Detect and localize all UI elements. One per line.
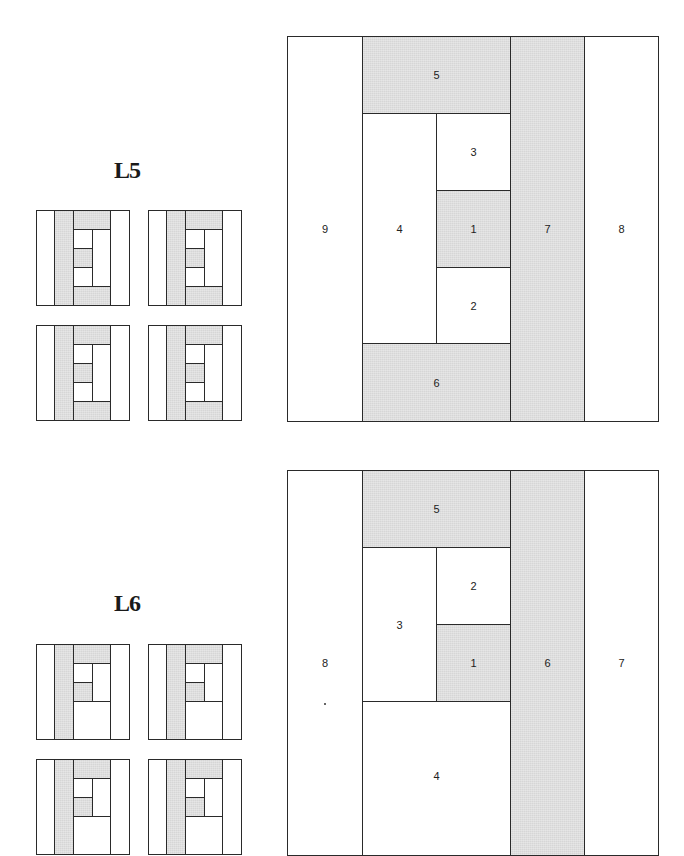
thumb-piece xyxy=(185,778,205,798)
piece-5: 5 xyxy=(362,470,511,548)
piece-2: 2 xyxy=(436,267,511,344)
thumb-piece xyxy=(148,644,167,740)
thumb-piece xyxy=(73,267,93,287)
thumb-piece xyxy=(73,229,93,249)
thumb-piece xyxy=(185,344,205,364)
thumb-piece xyxy=(73,644,111,664)
thumb-piece xyxy=(36,759,55,855)
thumb-piece xyxy=(222,325,242,421)
piece-4: 4 xyxy=(362,701,511,856)
piece-1: 1 xyxy=(436,190,511,268)
thumb-piece xyxy=(92,663,111,702)
thumb-piece xyxy=(185,267,205,287)
thumb-piece xyxy=(92,229,111,287)
thumb-piece xyxy=(204,778,223,817)
thumb-piece xyxy=(54,325,74,421)
thumb-piece xyxy=(73,344,93,364)
thumb-piece xyxy=(73,401,111,421)
thumb-piece xyxy=(73,759,111,779)
thumb-piece xyxy=(204,663,223,702)
thumb-piece xyxy=(185,797,205,817)
thumb-piece xyxy=(73,382,93,402)
l5-block-diagram: 9 5 4 3 1 2 6 7 8 xyxy=(287,36,659,422)
thumb-piece xyxy=(204,229,223,287)
mark-dot xyxy=(324,703,326,705)
thumb-piece xyxy=(36,325,55,421)
thumb-piece xyxy=(110,759,130,855)
thumb-piece xyxy=(185,682,205,702)
thumb-piece xyxy=(185,759,223,779)
piece-1: 1 xyxy=(436,624,511,702)
thumb-piece xyxy=(73,682,93,702)
thumb-piece xyxy=(185,363,205,383)
thumb-piece xyxy=(73,797,93,817)
thumb-piece xyxy=(222,759,242,855)
piece-6: 6 xyxy=(362,343,511,422)
piece-6: 6 xyxy=(510,470,585,856)
thumb-piece xyxy=(185,229,205,249)
thumb-piece xyxy=(36,644,55,740)
thumb-piece xyxy=(73,210,111,230)
l5-thumbnail xyxy=(36,325,130,421)
thumb-piece xyxy=(166,325,186,421)
block-label-l5: L5 xyxy=(114,157,140,184)
thumb-piece xyxy=(73,701,111,740)
thumb-piece xyxy=(166,210,186,306)
piece-4: 4 xyxy=(362,113,437,344)
piece-8: 8 xyxy=(287,470,363,856)
thumb-piece xyxy=(73,325,111,345)
thumb-piece xyxy=(185,663,205,683)
thumb-piece xyxy=(54,210,74,306)
thumb-piece xyxy=(110,644,130,740)
piece-7: 7 xyxy=(510,36,585,422)
thumb-piece xyxy=(54,644,74,740)
thumb-piece xyxy=(185,401,223,421)
thumb-piece xyxy=(166,759,186,855)
piece-9: 9 xyxy=(287,36,363,422)
l5-thumbnail xyxy=(36,210,130,306)
block-label-l6: L6 xyxy=(114,590,140,617)
piece-3: 3 xyxy=(436,113,511,191)
thumb-piece xyxy=(185,644,223,664)
thumb-piece xyxy=(185,325,223,345)
l6-thumbnail xyxy=(36,759,130,855)
thumb-piece xyxy=(185,816,223,855)
thumb-piece xyxy=(36,210,55,306)
piece-5: 5 xyxy=(362,36,511,114)
thumb-piece xyxy=(73,363,93,383)
thumb-piece xyxy=(148,759,167,855)
piece-8: 8 xyxy=(584,36,659,422)
thumb-piece xyxy=(92,344,111,402)
thumb-piece xyxy=(73,286,111,306)
thumb-piece xyxy=(73,663,93,683)
thumb-piece xyxy=(73,778,93,798)
thumb-piece xyxy=(166,644,186,740)
thumb-piece xyxy=(222,644,242,740)
thumb-piece xyxy=(185,286,223,306)
thumb-piece xyxy=(222,210,242,306)
thumb-piece xyxy=(185,382,205,402)
l6-thumbnail xyxy=(36,644,130,740)
thumb-piece xyxy=(92,778,111,817)
thumb-piece xyxy=(110,325,130,421)
thumb-piece xyxy=(73,816,111,855)
thumb-piece xyxy=(54,759,74,855)
thumb-piece xyxy=(185,210,223,230)
l6-thumbnail xyxy=(148,644,242,740)
l6-block-diagram: 8 5 3 2 1 4 6 7 xyxy=(287,470,659,856)
piece-2: 2 xyxy=(436,547,511,625)
thumb-piece xyxy=(185,248,205,268)
thumb-piece xyxy=(148,210,167,306)
thumb-piece xyxy=(110,210,130,306)
piece-3: 3 xyxy=(362,547,437,702)
thumb-piece xyxy=(185,701,223,740)
l5-thumbnail xyxy=(148,325,242,421)
l6-thumbnail xyxy=(148,759,242,855)
thumb-piece xyxy=(204,344,223,402)
thumb-piece xyxy=(73,248,93,268)
piece-7: 7 xyxy=(584,470,659,856)
l5-thumbnail xyxy=(148,210,242,306)
thumb-piece xyxy=(148,325,167,421)
